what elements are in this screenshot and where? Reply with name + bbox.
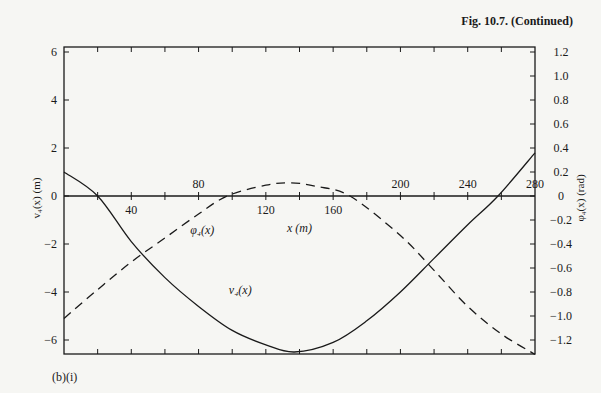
x-tick-label: 280 — [526, 177, 544, 191]
right-tick-label: 0.4 — [554, 141, 569, 155]
right-tick-label: −0.8 — [550, 285, 572, 299]
x-tick-label: 80 — [193, 177, 205, 191]
x-axis-title: x (m) — [286, 221, 312, 235]
axis-ticks — [64, 47, 535, 354]
right-tick-label: 0.2 — [554, 165, 569, 179]
left-tick-label: −4 — [44, 285, 57, 299]
curve-annotation: v₄(x) — [229, 283, 252, 297]
left-tick-label: 6 — [51, 45, 57, 59]
x-tick-label: 240 — [459, 177, 477, 191]
x-tick-label: 200 — [391, 177, 409, 191]
left-tick-label: −2 — [44, 237, 57, 251]
left-axis-title: v₄(x) (m) — [30, 177, 43, 218]
right-tick-label: 0 — [558, 189, 564, 203]
right-tick-label: 1.2 — [554, 45, 569, 59]
left-tick-label: 4 — [51, 93, 57, 107]
left-tick-label: −6 — [44, 333, 57, 347]
plot-border — [64, 47, 535, 354]
right-tick-label: −1.0 — [550, 309, 572, 323]
curve-annotation: φ₄(x) — [190, 223, 214, 237]
right-tick-label: 1.0 — [554, 69, 569, 83]
x-tick-label: 160 — [324, 203, 342, 217]
x-tick-label: 120 — [257, 203, 275, 217]
right-tick-label: −0.2 — [550, 213, 572, 227]
right-tick-label: −0.4 — [550, 237, 572, 251]
right-tick-label: 0.8 — [554, 93, 569, 107]
right-tick-label: −0.6 — [550, 261, 572, 275]
right-axis-title: φ₄(x) (rad) — [574, 174, 587, 221]
chart: 80200240280401201606420−2−4−61.21.00.80.… — [0, 0, 601, 393]
x-tick-label: 40 — [125, 203, 137, 217]
left-tick-label: 0 — [51, 189, 57, 203]
right-tick-label: −1.2 — [550, 333, 572, 347]
plot-frame — [64, 47, 535, 354]
right-tick-label: 0.6 — [554, 117, 569, 131]
left-tick-label: 2 — [51, 141, 57, 155]
